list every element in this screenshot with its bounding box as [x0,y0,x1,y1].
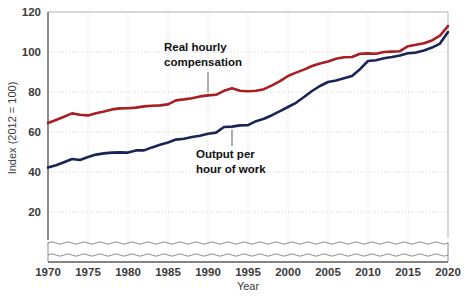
x-axis-tick-label: 2000 [275,266,301,278]
x-axis-tick-label: 1990 [195,266,221,278]
x-axis-tick-label: 2015 [395,266,421,278]
x-axis-tick-labels: 1970197519801985199019952000200520102015… [35,266,461,278]
x-axis-tick-label: 1980 [115,266,141,278]
y-axis-tick-label: 20 [28,206,41,218]
x-axis-tick-label: 1970 [35,266,61,278]
x-axis-tick-label: 2005 [315,266,341,278]
y-axis-tick-label: 100 [22,46,41,58]
y-axis-tick-label: 80 [28,86,41,98]
y-axis-tick-label: 120 [22,6,41,18]
y-axis-title: Index (2012 = 100) [6,82,18,175]
annotation-real-hourly-compensation-line1: Real hourly [164,41,227,53]
y-axis-tick-label: 60 [28,126,41,138]
x-axis-tick-label: 1975 [75,266,101,278]
x-axis-tick-label: 1995 [235,266,261,278]
y-axis-tick-label: 40 [28,166,41,178]
x-axis-tick-label: 1985 [155,266,181,278]
x-axis-title: Year [237,280,260,292]
annotation-output-per-hour-line2: hour of work [196,163,266,175]
x-axis-tick-label: 2020 [435,266,461,278]
line-chart: 20406080100120 1970197519801985199019952… [0,0,467,297]
x-axis-tick-label: 2010 [355,266,381,278]
chart-figure: 20406080100120 1970197519801985199019952… [0,0,467,297]
annotation-real-hourly-compensation-line2: compensation [164,56,242,68]
annotation-output-per-hour-line1: Output per [196,148,255,160]
